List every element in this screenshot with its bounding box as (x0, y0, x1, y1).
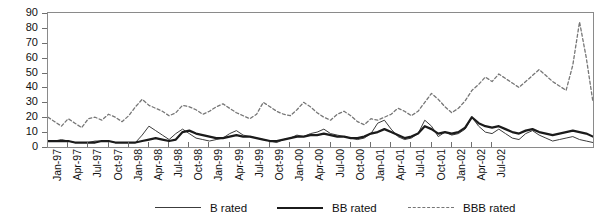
x-axis-label-oct-01: Oct-01 (436, 149, 447, 181)
cropped-text-ghost: · · · · · · · (110, 0, 588, 3)
x-axis-tick-apr-01 (390, 142, 391, 147)
x-axis-tick-jul-02 (491, 142, 492, 147)
x-axis-tick-oct-00 (350, 142, 351, 147)
x-axis-label-apr-99: Apr-99 (234, 149, 245, 181)
legend-item-bb-rated: BB rated (277, 202, 377, 214)
series-line-bb-rated (48, 117, 593, 142)
x-axis-label-oct-00: Oct-00 (355, 149, 366, 181)
x-axis-tick-jul-97 (87, 142, 88, 147)
x-axis-label-jan-98: Jan-98 (133, 149, 144, 181)
x-axis-label-jul-97: Jul-97 (92, 149, 103, 178)
x-axis-label-apr-98: Apr-98 (153, 149, 164, 181)
legend-label-bb-rated: BB rated (332, 202, 377, 214)
chart-legend: B rated BB rated BBB rated (0, 198, 605, 218)
legend-swatch-bb-rated (277, 203, 323, 213)
x-axis: Jan-97Apr-97Jul-97Oct-97Jan-98Apr-98Jul-… (0, 149, 605, 197)
x-axis-label-jan-00: Jan-00 (294, 149, 305, 181)
y-axis-label-60: 60 (26, 52, 38, 63)
cropped-text-strip: · · · · · · · (0, 0, 605, 5)
y-axis-label-40: 40 (26, 81, 38, 92)
y-axis-label-80: 80 (26, 22, 38, 33)
x-axis-label-apr-97: Apr-97 (72, 149, 83, 181)
x-axis-tick-apr-97 (67, 142, 68, 147)
x-axis-tick-apr-02 (471, 142, 472, 147)
legend-item-bbb-rated: BBB rated (408, 202, 515, 214)
x-axis-tick-jan-01 (370, 142, 371, 147)
legend-swatch-bbb-rated (408, 203, 454, 213)
x-axis-tick-jan-00 (289, 142, 290, 147)
legend-label-b-rated: B rated (210, 202, 247, 214)
x-axis-tick-jul-99 (249, 142, 250, 147)
x-axis-tick-jan-98 (128, 142, 129, 147)
x-axis-label-apr-00: Apr-00 (314, 149, 325, 181)
legend-label-bbb-rated: BBB rated (463, 202, 515, 214)
x-axis-tick-apr-00 (309, 142, 310, 147)
x-axis-label-jul-98: Jul-98 (173, 149, 184, 178)
x-axis-tick-oct-97 (108, 142, 109, 147)
x-axis-tick-apr-98 (148, 142, 149, 147)
x-axis-tick-oct-99 (269, 142, 270, 147)
legend-swatch-b-rated (155, 203, 201, 213)
x-axis-label-jul-01: Jul-01 (415, 149, 426, 178)
y-axis-label-90: 90 (26, 7, 38, 18)
x-axis-tick-jul-01 (410, 142, 411, 147)
plot-area (47, 12, 594, 148)
x-axis-label-jan-97: Jan-97 (52, 149, 63, 181)
y-axis-label-50: 50 (26, 67, 38, 78)
series-line-b-rated (48, 117, 593, 142)
x-axis-label-oct-98: Oct-98 (193, 149, 204, 181)
x-axis-label-jul-00: Jul-00 (335, 149, 346, 178)
x-axis-label-jan-01: Jan-01 (375, 149, 386, 181)
x-axis-label-jul-02: Jul-02 (496, 149, 507, 178)
x-axis-tick-jan-99 (208, 142, 209, 147)
series-line-bbb-rated (48, 22, 593, 128)
legend-item-b-rated: B rated (155, 202, 247, 214)
x-axis-tick-jul-00 (330, 142, 331, 147)
x-axis-tick-apr-99 (229, 142, 230, 147)
x-axis-tick-jan-02 (451, 142, 452, 147)
y-axis: 9080706050403020100 (0, 0, 47, 160)
x-axis-label-apr-02: Apr-02 (476, 149, 487, 181)
y-axis-label-30: 30 (26, 96, 38, 107)
y-axis-label-10: 10 (26, 126, 38, 137)
x-axis-tick-jul-98 (168, 142, 169, 147)
x-axis-label-apr-01: Apr-01 (395, 149, 406, 181)
x-axis-label-jan-99: Jan-99 (213, 149, 224, 181)
x-axis-label-jan-02: Jan-02 (456, 149, 467, 181)
y-axis-label-70: 70 (26, 37, 38, 48)
chart-container: · · · · · · · 9080706050403020100 Jan-97… (0, 0, 605, 224)
x-axis-label-oct-99: Oct-99 (274, 149, 285, 181)
x-axis-label-jul-99: Jul-99 (254, 149, 265, 178)
series-lines (48, 13, 593, 147)
x-axis-label-oct-97: Oct-97 (113, 149, 124, 181)
x-axis-tick-oct-98 (188, 142, 189, 147)
y-axis-label-20: 20 (26, 111, 38, 122)
x-axis-tick-oct-01 (431, 142, 432, 147)
